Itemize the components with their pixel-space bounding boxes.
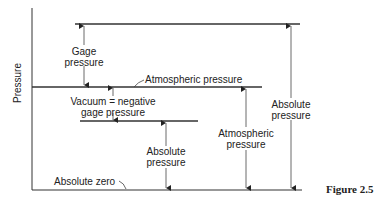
atmospheric-line-label: Atmospheric pressure — [145, 74, 242, 85]
y-axis-label: Pressure — [12, 63, 23, 103]
atmospheric-pressure-label: Atmospheric pressure — [216, 128, 276, 150]
pressure-diagram — [0, 0, 388, 203]
absolute-zero-label: Absolute zero — [54, 176, 115, 187]
gage-pressure-label: Gage pressure — [64, 46, 104, 68]
vacuum-label: Vacuum = negative gage pressure — [68, 96, 158, 118]
figure-caption: Figure 2.5 — [326, 183, 373, 195]
absolute-pressure-high-label: Absolute pressure — [266, 99, 316, 121]
absolute-pressure-low-label: Absolute pressure — [141, 146, 191, 168]
